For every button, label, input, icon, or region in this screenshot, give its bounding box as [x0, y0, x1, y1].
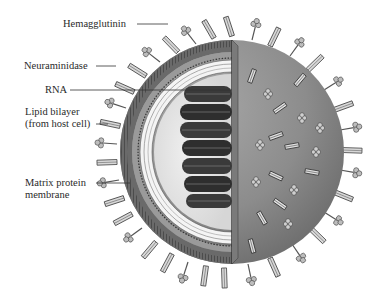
label-hemagglutinin: Hemagglutinin — [63, 18, 126, 30]
label-neuraminidase: Neuraminidase — [24, 60, 88, 72]
label-matrix-protein: Matrix protein — [25, 177, 86, 189]
rna-coils — [180, 86, 232, 208]
label-lipid-bilayer-source: (from host cell) — [25, 118, 90, 130]
influenza-virus-diagram: Hemagglutinin Neuraminidase RNA Lipid bi… — [0, 0, 367, 298]
label-rna: RNA — [45, 84, 67, 96]
virus-illustration — [0, 0, 367, 298]
label-lipid-bilayer: Lipid bilayer — [25, 106, 80, 118]
label-matrix-membrane: membrane — [25, 189, 69, 201]
